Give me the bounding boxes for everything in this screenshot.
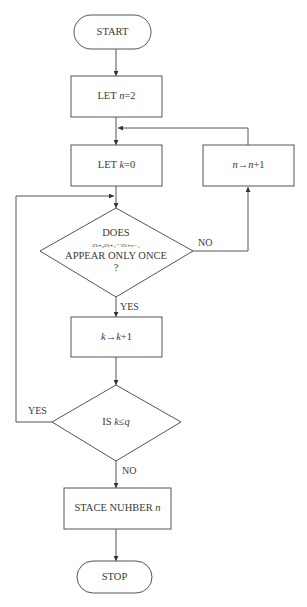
inc-n-suffix: +1 (253, 159, 264, 170)
let-n-prefix: LET (97, 90, 119, 101)
does-line3: APPEAR ONLY ONCE (65, 250, 167, 261)
node-stace: STACE NUHBER n (64, 488, 171, 529)
node-let-k: LET k=0 (71, 145, 162, 186)
inc-n-label: n→n+1 (232, 159, 264, 170)
inc-k-suffix: +1 (121, 331, 132, 342)
node-stop: STOP (77, 561, 152, 593)
stop-label: STOP (102, 571, 128, 582)
stace-var: n (155, 502, 160, 513)
node-inc-n: n→n+1 (203, 145, 294, 186)
does-line1: DOES (102, 227, 130, 238)
inc-k-arrow: → (106, 331, 117, 342)
edge-label-does-no: NO (198, 237, 212, 248)
let-n-label: LET n=2 (97, 90, 135, 101)
inc-k-label: k→k+1 (101, 331, 132, 342)
node-does-decision: DOES cₖ₊₀cₖ₊₁···cₖ₊ₙ₋₁ APPEAR ONLY ONCE … (40, 208, 193, 297)
is-k-var2: q (125, 416, 130, 427)
does-formula: cₖ₊₀cₖ₊₁···cₖ₊ₙ₋₁ (92, 241, 139, 249)
stace-label: STACE NUHBER n (74, 502, 160, 513)
node-let-n: LET n=2 (71, 76, 162, 117)
let-k-suffix: =0 (124, 159, 135, 170)
node-inc-k: k→k+1 (71, 317, 162, 357)
inc-n-arrow: → (238, 159, 249, 170)
let-k-prefix: LET (98, 159, 120, 170)
start-label: START (97, 26, 129, 37)
edge-label-is-k-yes: YES (28, 405, 47, 416)
node-start: START (74, 15, 151, 49)
let-k-label: LET k=0 (98, 159, 136, 170)
edge-label-does-yes: YES (120, 301, 139, 312)
stace-prefix: STACE NUHBER (74, 502, 155, 513)
is-k-prefix: IS (102, 416, 114, 427)
is-k-label: IS k≤q (102, 416, 130, 427)
flowchart: START LET n=2 LET k=0 n→n+1 DOES cₖ₊₀cₖ₊… (0, 0, 307, 607)
let-n-suffix: =2 (124, 90, 135, 101)
does-line4: ? (114, 262, 119, 273)
edge-inc-n-to-let-k (118, 128, 248, 145)
edge-label-is-k-no: NO (122, 465, 136, 476)
node-is-k-decision: IS k≤q (52, 385, 181, 461)
